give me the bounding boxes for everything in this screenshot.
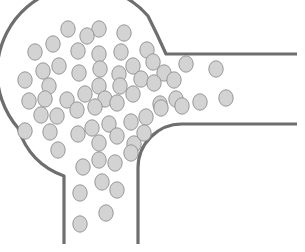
- particle: [134, 71, 148, 87]
- particle: [124, 145, 138, 161]
- particle: [95, 174, 109, 190]
- particle: [78, 86, 92, 102]
- particle: [179, 56, 193, 72]
- inner-corner-wall: [138, 124, 297, 244]
- particle: [219, 90, 233, 106]
- particle: [22, 93, 36, 109]
- particle: [209, 61, 223, 77]
- particle: [80, 28, 94, 44]
- particle: [93, 61, 107, 77]
- particle: [43, 124, 57, 140]
- particle: [167, 72, 181, 88]
- particle: [92, 152, 106, 168]
- particle: [124, 114, 138, 130]
- particle: [85, 120, 99, 136]
- particle: [70, 102, 84, 118]
- particle: [154, 100, 168, 116]
- particle: [92, 135, 106, 151]
- particle: [76, 159, 90, 175]
- particle: [72, 65, 86, 81]
- particle: [73, 216, 87, 232]
- particle: [193, 94, 207, 110]
- particle: [147, 75, 161, 91]
- particle: [108, 155, 122, 171]
- particle: [18, 72, 32, 88]
- particle: [113, 78, 127, 94]
- particle: [18, 123, 32, 139]
- particle: [175, 98, 189, 114]
- particle: [110, 128, 124, 144]
- particle: [38, 91, 52, 107]
- particle: [28, 44, 42, 60]
- particle: [51, 142, 65, 158]
- particle: [34, 107, 48, 123]
- particle: [110, 182, 124, 198]
- particle: [137, 125, 151, 141]
- particle-junction-diagram: [0, 0, 305, 252]
- particle: [46, 36, 60, 52]
- particle: [117, 25, 131, 41]
- particle: [110, 95, 124, 111]
- particle: [52, 58, 66, 74]
- particle: [71, 43, 85, 59]
- particle: [139, 109, 153, 125]
- particle: [50, 108, 64, 124]
- particle: [92, 46, 106, 62]
- particle: [88, 99, 102, 115]
- particle: [61, 21, 75, 37]
- particle: [71, 126, 85, 142]
- particle: [99, 205, 113, 221]
- particle: [73, 185, 87, 201]
- particle: [114, 44, 128, 60]
- particle: [126, 86, 140, 102]
- particle: [36, 63, 50, 79]
